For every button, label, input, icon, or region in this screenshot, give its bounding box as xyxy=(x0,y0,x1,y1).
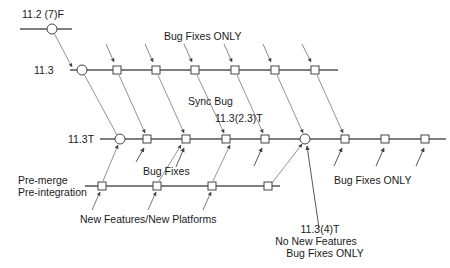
sync-arrow xyxy=(277,75,303,133)
train-lines xyxy=(20,29,446,186)
release-11-3-4t-pointer xyxy=(307,146,319,228)
build-node xyxy=(261,135,269,143)
connector-11-3-to-11-3t xyxy=(84,74,117,135)
build-node xyxy=(421,135,429,143)
release-node-11-3-4t xyxy=(300,134,310,144)
build-node xyxy=(98,182,106,190)
label-bug-fixes-only-bottom: Bug Fixes ONLY xyxy=(275,247,375,259)
label-sync-bug: Sync Bug xyxy=(188,95,233,107)
build-node xyxy=(222,135,230,143)
build-node xyxy=(182,135,190,143)
sync-arrow xyxy=(119,75,145,133)
merge-arrow xyxy=(103,145,118,181)
release-node-11-3t xyxy=(115,134,125,144)
label-bug-fixes-only-right: Bug Fixes ONLY xyxy=(334,174,411,186)
release-node-11-2 xyxy=(47,24,57,34)
build-node xyxy=(152,66,160,74)
sync-arrow xyxy=(158,75,184,133)
build-node xyxy=(341,135,349,143)
label-premerge: Pre-merge xyxy=(18,174,68,186)
connectors xyxy=(54,33,343,183)
label-bug-fixes-only-top: Bug Fixes ONLY xyxy=(164,30,241,42)
label-bug-fixes: Bug Fixes xyxy=(143,165,190,177)
build-node xyxy=(191,66,199,74)
sync-arrow xyxy=(237,75,263,133)
release-node-11-3 xyxy=(77,65,87,75)
label-preintegration: Pre-integration xyxy=(18,186,87,198)
feature-arrows xyxy=(92,192,211,210)
merge-arrow xyxy=(272,144,302,183)
label-release-11-2: 11.2 (7)F xyxy=(22,8,64,20)
nodes xyxy=(47,24,429,190)
build-node xyxy=(143,135,151,143)
connector-11-2-to-11-3 xyxy=(54,33,72,67)
label-no-new-features: No New Features xyxy=(266,235,366,247)
label-new-features: New Features/New Platforms xyxy=(80,213,217,225)
build-node xyxy=(264,182,272,190)
sync-arrow xyxy=(317,75,343,133)
label-release-11-3-2-3t: 11.3(2.3)T xyxy=(215,112,263,124)
build-node xyxy=(381,135,389,143)
build-node xyxy=(311,66,319,74)
build-node xyxy=(113,66,121,74)
label-release-11-3t: 11.3T xyxy=(68,133,94,145)
build-node xyxy=(153,182,161,190)
merge-arrow xyxy=(213,145,230,181)
label-release-11-3: 11.3 xyxy=(34,64,54,76)
bugfix-arrows-11-3 xyxy=(106,44,311,62)
label-release-11-3-4t: 11.3(4)T xyxy=(270,223,370,235)
build-node xyxy=(208,182,216,190)
build-node xyxy=(231,66,239,74)
build-node xyxy=(271,66,279,74)
